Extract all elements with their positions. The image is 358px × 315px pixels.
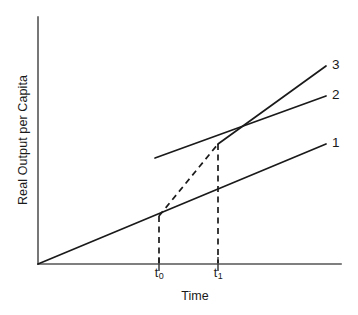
curve-label-2: 2 — [332, 87, 350, 102]
growth-path-figure: Real Output per Capita Time t0 t1 3 2 1 — [0, 0, 358, 315]
curve-label-1: 1 — [332, 135, 350, 150]
transition-path-dashed — [159, 144, 218, 216]
x-tick-label-t1-subscript: 1 — [218, 271, 223, 281]
plot-canvas — [0, 0, 358, 315]
x-axis-title: Time — [155, 289, 235, 303]
x-tick-label-t1-base: t — [214, 266, 217, 280]
trend-line-3 — [218, 66, 326, 144]
x-tick-label-t0-base: t — [155, 266, 158, 280]
trend-line-1 — [38, 144, 326, 264]
y-axis-title: Real Output per Capita — [14, 20, 32, 260]
x-tick-label-t1: t1 — [201, 266, 235, 280]
x-tick-label-t0: t0 — [142, 266, 176, 280]
curve-label-3: 3 — [332, 57, 350, 72]
x-tick-label-t0-subscript: 0 — [159, 271, 164, 281]
